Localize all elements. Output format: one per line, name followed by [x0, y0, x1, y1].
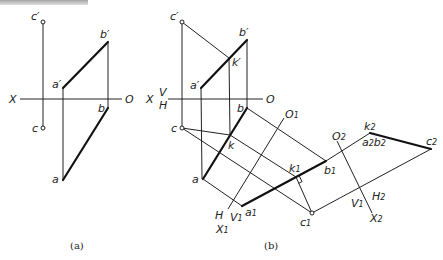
label-k-b: k — [228, 139, 235, 152]
axis-label-h-b: H — [159, 99, 167, 112]
label-c-prime-a: c′ — [31, 10, 40, 23]
line-ab-a — [63, 108, 108, 180]
axis-label-v-b: V — [159, 86, 168, 99]
line-ab-b — [203, 108, 247, 179]
label-a-prime-b: a′ — [190, 79, 200, 92]
point-c-b — [180, 126, 184, 130]
projection-line-k-b — [229, 58, 230, 135]
line-c-prime-k-prime — [182, 22, 229, 58]
label-k2: k2 — [364, 120, 375, 133]
caption-a: (a) — [70, 240, 84, 251]
line-c-k — [182, 128, 230, 135]
axis2-label-o2: O2 — [332, 130, 346, 143]
label-c-b: c — [171, 122, 177, 135]
label-k-prime-b: k′ — [232, 56, 241, 69]
label-a-b: a — [192, 173, 199, 186]
label-c-a: c — [32, 122, 38, 135]
label-a1: a1 — [245, 206, 257, 219]
projection-line-a-b — [201, 88, 202, 179]
label-b-prime-a: b′ — [100, 28, 110, 41]
point-c-prime-a — [41, 20, 45, 24]
label-k1: k1 — [289, 162, 300, 175]
axis2-label-v1: V1 — [351, 197, 364, 210]
axis2-label-x2: X2 — [369, 212, 383, 225]
label-b-a: b — [98, 102, 105, 115]
label-b-prime-b: b′ — [239, 26, 249, 39]
projection-diagram: X O c′ b′ a′ b c a (a) — [0, 0, 443, 260]
label-c1: c1 — [300, 216, 311, 229]
axis-label-o-b: O — [266, 93, 275, 106]
label-a2b2: a2b2 — [362, 136, 386, 149]
axis1-label-x1: X1 — [215, 223, 229, 236]
label-b1: b1 — [324, 164, 336, 177]
axis1-label-h: H — [215, 209, 223, 222]
figure-a: X O c′ b′ a′ b c a (a) — [8, 10, 134, 251]
caption-b: (b) — [264, 240, 278, 251]
point-c-a — [41, 126, 45, 130]
axis-label-x-a: X — [8, 93, 17, 106]
label-b-b: b — [237, 102, 244, 115]
axis2-label-h2: H2 — [372, 190, 385, 203]
label-a-a: a — [52, 173, 59, 186]
axis1-label-o1: O1 — [285, 108, 299, 121]
right-angle-mark — [299, 175, 302, 183]
projection-line-a-a1 — [203, 179, 242, 206]
line-a1-b1 — [242, 161, 326, 206]
axis1-label-v1: V1 — [230, 211, 243, 224]
figure-b: X V H O c′ b′ k′ a′ b c k a a1 b1 k1 c1 … — [145, 10, 437, 251]
axis-label-o-a: O — [125, 93, 134, 106]
projection-line-k-k1 — [230, 135, 296, 177]
line-a-prime-b-prime-a — [63, 42, 108, 88]
point-c-prime-b — [180, 20, 184, 24]
label-a-prime-a: a′ — [52, 78, 62, 91]
axis-label-x-b: X — [145, 93, 154, 106]
label-c2: c2 — [426, 135, 437, 148]
point-c1 — [310, 211, 314, 215]
label-c-prime-b: c′ — [170, 10, 179, 23]
